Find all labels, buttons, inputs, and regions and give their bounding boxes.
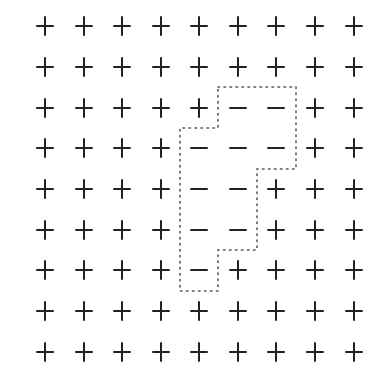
- plus-icon: [262, 216, 290, 244]
- minus-icon: [185, 175, 213, 203]
- plus-icon: [262, 175, 290, 203]
- plus-icon: [31, 256, 59, 284]
- plus-icon: [224, 338, 252, 366]
- plus-icon: [340, 12, 368, 40]
- plus-icon: [147, 256, 175, 284]
- plus-icon: [108, 297, 136, 325]
- plus-icon: [340, 94, 368, 122]
- plus-icon: [340, 338, 368, 366]
- plus-icon: [31, 134, 59, 162]
- minus-icon: [262, 134, 290, 162]
- plus-icon: [70, 175, 98, 203]
- plus-icon: [185, 297, 213, 325]
- minus-icon: [185, 134, 213, 162]
- plus-icon: [301, 256, 329, 284]
- plus-icon: [147, 216, 175, 244]
- plus-icon: [185, 94, 213, 122]
- plus-icon: [31, 12, 59, 40]
- plus-icon: [108, 216, 136, 244]
- plus-icon: [108, 338, 136, 366]
- plus-icon: [340, 53, 368, 81]
- plus-icon: [185, 338, 213, 366]
- plus-icon: [108, 94, 136, 122]
- plus-icon: [108, 256, 136, 284]
- minus-icon: [224, 134, 252, 162]
- plus-icon: [301, 175, 329, 203]
- plus-icon: [108, 175, 136, 203]
- plus-icon: [340, 216, 368, 244]
- plus-icon: [147, 175, 175, 203]
- plus-icon: [31, 175, 59, 203]
- plus-icon: [70, 53, 98, 81]
- minus-icon: [185, 256, 213, 284]
- plus-icon: [262, 12, 290, 40]
- plus-icon: [301, 94, 329, 122]
- plus-icon: [108, 134, 136, 162]
- plus-icon: [262, 338, 290, 366]
- plus-icon: [108, 12, 136, 40]
- plus-icon: [31, 338, 59, 366]
- plus-icon: [185, 53, 213, 81]
- plus-icon: [224, 256, 252, 284]
- plus-icon: [70, 256, 98, 284]
- plus-icon: [147, 12, 175, 40]
- minus-icon: [224, 175, 252, 203]
- plus-icon: [70, 134, 98, 162]
- plus-icon: [31, 297, 59, 325]
- plus-icon: [301, 12, 329, 40]
- plus-icon: [301, 338, 329, 366]
- plus-icon: [340, 175, 368, 203]
- plus-icon: [70, 12, 98, 40]
- plus-icon: [147, 297, 175, 325]
- plus-icon: [31, 216, 59, 244]
- plus-icon: [224, 53, 252, 81]
- minus-icon: [185, 216, 213, 244]
- plus-icon: [108, 53, 136, 81]
- plus-icon: [340, 297, 368, 325]
- plus-icon: [147, 134, 175, 162]
- minus-icon: [224, 216, 252, 244]
- plus-icon: [262, 53, 290, 81]
- plus-icon: [31, 53, 59, 81]
- plus-icon: [301, 134, 329, 162]
- plus-icon: [147, 94, 175, 122]
- plus-icon: [340, 256, 368, 284]
- plus-icon: [70, 297, 98, 325]
- plus-icon: [185, 12, 213, 40]
- minus-icon: [262, 94, 290, 122]
- plus-icon: [147, 53, 175, 81]
- plus-icon: [70, 94, 98, 122]
- plus-icon: [262, 297, 290, 325]
- plus-icon: [224, 12, 252, 40]
- spin-grid-diagram: [0, 0, 386, 375]
- plus-icon: [224, 297, 252, 325]
- minus-icon: [224, 94, 252, 122]
- plus-icon: [31, 94, 59, 122]
- plus-icon: [301, 53, 329, 81]
- plus-icon: [70, 338, 98, 366]
- plus-icon: [262, 256, 290, 284]
- plus-icon: [301, 216, 329, 244]
- plus-icon: [301, 297, 329, 325]
- plus-icon: [147, 338, 175, 366]
- plus-icon: [70, 216, 98, 244]
- plus-icon: [340, 134, 368, 162]
